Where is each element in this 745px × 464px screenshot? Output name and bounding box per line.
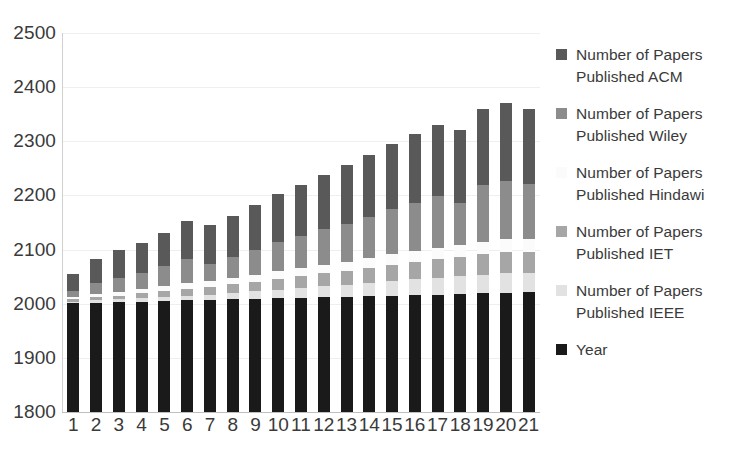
bar-segment[interactable] <box>523 184 535 239</box>
bar-segment[interactable] <box>432 259 444 277</box>
bar-segment[interactable] <box>318 297 330 412</box>
bar-segment[interactable] <box>295 298 307 412</box>
bar-segment[interactable] <box>227 257 239 278</box>
bar-segment[interactable] <box>136 273 148 289</box>
bar-segment[interactable] <box>454 245 466 257</box>
bar-segment[interactable] <box>90 303 102 412</box>
legend-item[interactable]: Number of PapersPublished IET <box>556 221 742 265</box>
bar-segment[interactable] <box>523 252 535 273</box>
bar-segment[interactable] <box>113 278 125 292</box>
bar-segment[interactable] <box>295 288 307 298</box>
bar-segment[interactable] <box>272 194 284 242</box>
bar-column[interactable] <box>341 165 353 412</box>
bar-column[interactable] <box>136 243 148 412</box>
bar-segment[interactable] <box>181 289 193 296</box>
bar-column[interactable] <box>454 130 466 412</box>
bar-segment[interactable] <box>341 165 353 223</box>
bar-segment[interactable] <box>181 259 193 283</box>
bar-segment[interactable] <box>249 282 261 292</box>
bar-segment[interactable] <box>341 297 353 412</box>
bar-segment[interactable] <box>318 229 330 265</box>
bar-column[interactable] <box>204 225 216 412</box>
bar-segment[interactable] <box>432 295 444 412</box>
bar-segment[interactable] <box>477 275 489 294</box>
bar-segment[interactable] <box>500 252 512 273</box>
legend-item[interactable]: Number of PapersPublished Wiley <box>556 103 742 147</box>
bar-segment[interactable] <box>454 276 466 294</box>
bar-column[interactable] <box>477 109 489 412</box>
bar-segment[interactable] <box>136 302 148 412</box>
bar-column[interactable] <box>272 194 284 412</box>
bar-segment[interactable] <box>204 225 216 264</box>
bar-segment[interactable] <box>409 262 421 279</box>
bar-segment[interactable] <box>227 216 239 257</box>
bar-segment[interactable] <box>204 300 216 412</box>
legend-item[interactable]: Year <box>556 339 742 361</box>
bar-segment[interactable] <box>500 103 512 181</box>
bar-segment[interactable] <box>409 134 421 202</box>
bar-segment[interactable] <box>113 302 125 412</box>
bar-column[interactable] <box>90 259 102 412</box>
bar-column[interactable] <box>523 109 535 412</box>
bar-segment[interactable] <box>500 293 512 412</box>
bar-column[interactable] <box>500 103 512 412</box>
bar-segment[interactable] <box>318 175 330 229</box>
bar-segment[interactable] <box>477 293 489 412</box>
bar-segment[interactable] <box>363 283 375 296</box>
bar-segment[interactable] <box>500 273 512 292</box>
bar-segment[interactable] <box>523 292 535 412</box>
bar-segment[interactable] <box>272 279 284 290</box>
bar-segment[interactable] <box>386 281 398 296</box>
legend-item[interactable]: Number of PapersPublished Hindawi <box>556 162 742 206</box>
bar-segment[interactable] <box>227 299 239 412</box>
bar-segment[interactable] <box>318 286 330 297</box>
bar-segment[interactable] <box>204 264 216 281</box>
bar-segment[interactable] <box>272 298 284 412</box>
bar-segment[interactable] <box>67 303 79 412</box>
bar-segment[interactable] <box>90 283 102 294</box>
bar-segment[interactable] <box>523 239 535 252</box>
bar-segment[interactable] <box>500 181 512 239</box>
bar-segment[interactable] <box>249 291 261 299</box>
bar-segment[interactable] <box>158 233 170 267</box>
bar-segment[interactable] <box>249 250 261 275</box>
bar-segment[interactable] <box>249 275 261 282</box>
bar-segment[interactable] <box>523 109 535 184</box>
bar-segment[interactable] <box>363 296 375 412</box>
bar-segment[interactable] <box>295 268 307 276</box>
bar-column[interactable] <box>181 221 193 412</box>
bar-segment[interactable] <box>432 125 444 196</box>
bar-segment[interactable] <box>272 290 284 299</box>
bar-segment[interactable] <box>318 273 330 286</box>
legend-item[interactable]: Number of PapersPublished IEEE <box>556 280 742 324</box>
bar-segment[interactable] <box>363 268 375 283</box>
bar-segment[interactable] <box>158 266 170 285</box>
bar-segment[interactable] <box>386 209 398 254</box>
bar-segment[interactable] <box>295 276 307 288</box>
bar-segment[interactable] <box>409 203 421 252</box>
bar-segment[interactable] <box>90 259 102 283</box>
bar-column[interactable] <box>67 274 79 412</box>
bar-segment[interactable] <box>295 236 307 268</box>
bar-column[interactable] <box>432 125 444 412</box>
bar-segment[interactable] <box>363 217 375 258</box>
bar-segment[interactable] <box>477 242 489 254</box>
bar-segment[interactable] <box>454 257 466 276</box>
bar-segment[interactable] <box>386 144 398 209</box>
bar-segment[interactable] <box>113 250 125 278</box>
bar-segment[interactable] <box>409 251 421 262</box>
bar-segment[interactable] <box>295 185 307 236</box>
bar-segment[interactable] <box>67 274 79 291</box>
bar-segment[interactable] <box>409 279 421 295</box>
bar-segment[interactable] <box>136 243 148 273</box>
bar-segment[interactable] <box>432 278 444 295</box>
bar-segment[interactable] <box>341 285 353 297</box>
bar-column[interactable] <box>386 144 398 412</box>
bar-column[interactable] <box>158 233 170 412</box>
bar-segment[interactable] <box>523 273 535 292</box>
bar-segment[interactable] <box>454 203 466 245</box>
bar-segment[interactable] <box>181 221 193 259</box>
bar-segment[interactable] <box>249 299 261 412</box>
bar-column[interactable] <box>227 216 239 412</box>
bar-segment[interactable] <box>341 271 353 285</box>
